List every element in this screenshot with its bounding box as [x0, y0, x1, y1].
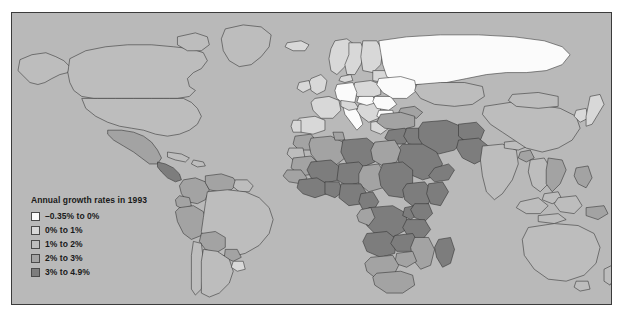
legend-label: 0% to 1% [45, 225, 83, 235]
country-mongolia [508, 92, 558, 108]
legend-item: 0% to 1% [31, 223, 171, 237]
legend-item: 2% to 3% [31, 251, 171, 265]
legend-title: Annual growth rates in 1993 [31, 195, 171, 205]
map-panel: Annual growth rates in 1993 –0.35% to 0%… [11, 12, 612, 305]
country-portugal [291, 120, 301, 132]
country-poland [353, 81, 381, 99]
legend-item: 3% to 4.9% [31, 265, 171, 279]
legend-swatch [31, 226, 40, 235]
legend-swatch [31, 254, 40, 263]
world-map-figure: Annual growth rates in 1993 –0.35% to 0%… [0, 0, 626, 323]
legend-swatch [31, 268, 40, 277]
map-legend: Annual growth rates in 1993 –0.35% to 0%… [31, 195, 171, 279]
legend-label: 3% to 4.9% [45, 267, 90, 277]
legend-label: 1% to 2% [45, 239, 83, 249]
legend-item: –0.35% to 0% [31, 209, 171, 223]
legend-label: –0.35% to 0% [45, 211, 99, 221]
legend-swatch [31, 212, 40, 221]
country-tunisia [333, 132, 345, 140]
legend-swatch [31, 240, 40, 249]
country-canada [68, 45, 208, 99]
legend-label: 2% to 3% [45, 253, 83, 263]
legend-item: 1% to 2% [31, 237, 171, 251]
